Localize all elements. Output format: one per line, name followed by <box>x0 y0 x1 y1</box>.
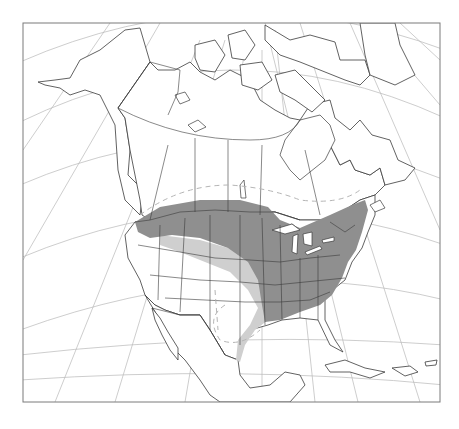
cuba <box>325 360 385 378</box>
lake-michigan <box>292 234 298 254</box>
longitude-line <box>400 23 440 60</box>
arctic-island <box>228 30 255 60</box>
puerto-rico <box>425 360 437 366</box>
arctic-island <box>240 62 272 90</box>
range-map <box>0 0 459 429</box>
hispaniola <box>392 366 418 376</box>
baffin-island <box>275 70 325 112</box>
lake-huron <box>303 232 312 246</box>
arctic-island <box>195 40 225 72</box>
